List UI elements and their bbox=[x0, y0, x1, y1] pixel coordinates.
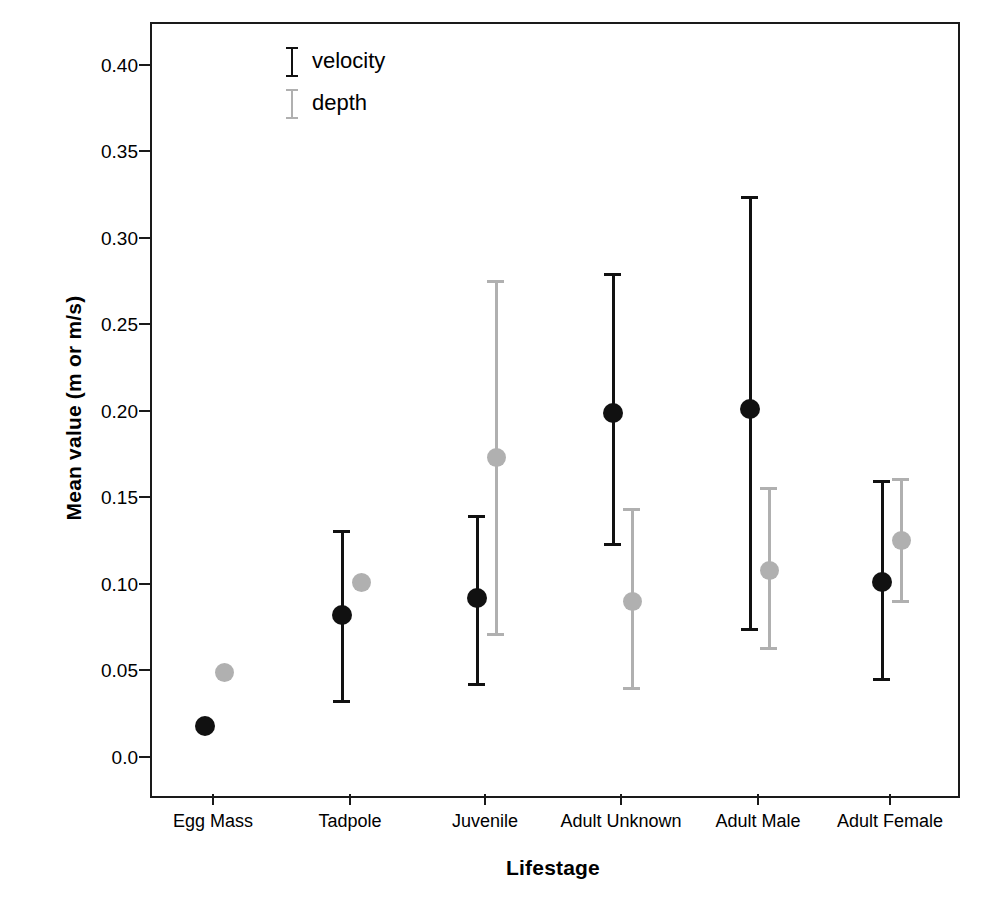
error-bar-cap bbox=[741, 628, 758, 631]
error-bar-cap bbox=[760, 647, 777, 650]
data-point-marker[interactable] bbox=[623, 592, 642, 611]
error-bar-cap bbox=[468, 515, 485, 518]
data-point-marker[interactable] bbox=[352, 573, 371, 592]
error-bar-cap bbox=[873, 480, 890, 483]
error-bar-cap bbox=[623, 508, 640, 511]
data-points-layer bbox=[0, 0, 981, 909]
error-bar-cap bbox=[487, 280, 504, 283]
data-point-marker[interactable] bbox=[892, 531, 911, 550]
data-point-marker[interactable] bbox=[740, 399, 760, 419]
error-bar-cap bbox=[468, 683, 485, 686]
data-point-marker[interactable] bbox=[872, 572, 892, 592]
data-point-marker[interactable] bbox=[332, 605, 352, 625]
error-bar-cap bbox=[892, 600, 909, 603]
error-bar-cap bbox=[623, 687, 640, 690]
error-bar-cap bbox=[333, 700, 350, 703]
data-point-marker[interactable] bbox=[215, 663, 234, 682]
error-bar-cap bbox=[892, 478, 909, 481]
data-point-marker[interactable] bbox=[487, 448, 506, 467]
data-point-marker[interactable] bbox=[467, 588, 487, 608]
error-bar-cap bbox=[760, 487, 777, 490]
chart-figure: Mean value (m or m/s) Lifestage 0.40 0.3… bbox=[0, 0, 981, 909]
error-bar-cap bbox=[604, 273, 621, 276]
error-bar-cap bbox=[741, 196, 758, 199]
error-bar-cap bbox=[604, 543, 621, 546]
data-point-marker[interactable] bbox=[603, 403, 623, 423]
data-point-marker[interactable] bbox=[195, 716, 215, 736]
error-bar-cap bbox=[333, 530, 350, 533]
error-bar-cap bbox=[487, 633, 504, 636]
data-point-marker[interactable] bbox=[760, 561, 779, 580]
error-bar-cap bbox=[873, 678, 890, 681]
